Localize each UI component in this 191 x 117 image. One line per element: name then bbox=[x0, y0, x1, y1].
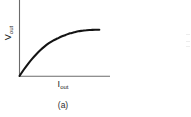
y-axis-label-subscript: out bbox=[8, 26, 14, 34]
artifact-mark bbox=[186, 41, 190, 42]
plot-svg bbox=[0, 0, 120, 82]
y-axis-label: Vout bbox=[1, 16, 15, 50]
vout-iout-curve bbox=[20, 30, 100, 76]
artifact-mark bbox=[186, 34, 190, 35]
x-axis-label-subscript: out bbox=[60, 84, 68, 90]
figure-container: Vout Iout (a) bbox=[0, 0, 191, 117]
cropped-neighbour-artifact bbox=[184, 33, 191, 51]
artifact-mark bbox=[186, 46, 190, 47]
plot-area: Vout Iout bbox=[0, 0, 120, 82]
figure-caption: (a) bbox=[44, 99, 82, 111]
x-axis-label: Iout bbox=[45, 78, 81, 90]
y-axis-label-symbol: V bbox=[3, 34, 13, 40]
